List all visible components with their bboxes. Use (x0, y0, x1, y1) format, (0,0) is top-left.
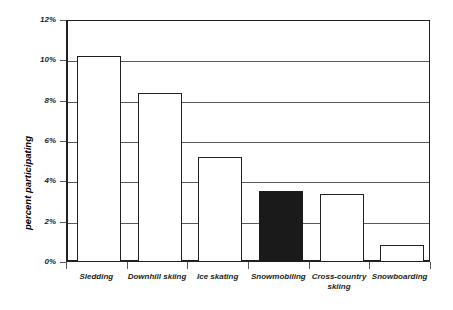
x-label-cross-country-skiing: Cross-country skiing (307, 272, 372, 292)
y-tick-mark-8 (60, 101, 66, 102)
gridline-6 (68, 142, 429, 143)
y-tick-mark-10 (60, 60, 66, 61)
y-tick-label-4: 4% (22, 177, 56, 185)
x-tick-2 (187, 262, 188, 269)
gridline-4 (68, 182, 429, 183)
x-label-snowboarding: Snowboarding (367, 272, 432, 282)
y-tick-mark-4 (60, 181, 66, 182)
y-tick-label-6: 6% (22, 137, 56, 145)
y-tick-mark-2 (60, 222, 66, 223)
bar-chart: percent participating 12% 10% 8% 6% 4% 2… (0, 0, 453, 310)
y-tick-mark-6 (60, 141, 66, 142)
y-tick-mark-12 (60, 20, 66, 21)
x-label-snowmobiling: Snowmobiling (246, 272, 311, 282)
y-tick-label-8: 8% (22, 97, 56, 105)
y-tick-label-12: 12% (22, 16, 56, 24)
x-tick-5 (369, 262, 370, 269)
y-tick-label-10: 10% (22, 56, 56, 64)
x-tick-4 (309, 262, 310, 269)
x-tick-3 (248, 262, 249, 269)
x-label-sledding: Sledding (66, 272, 127, 282)
y-tick-label-2: 2% (22, 218, 56, 226)
gridline-2 (68, 223, 429, 224)
plot-area (66, 20, 430, 262)
x-label-ice-skating: Ice skating (187, 272, 248, 282)
x-tick-0 (66, 262, 67, 269)
gridline-10 (68, 61, 429, 62)
x-tick-1 (127, 262, 128, 269)
x-tick-6 (430, 262, 431, 269)
x-label-downhill-skiing: Downhill skiing (125, 272, 190, 282)
y-tick-label-0: 0% (22, 258, 56, 266)
gridline-8 (68, 102, 429, 103)
